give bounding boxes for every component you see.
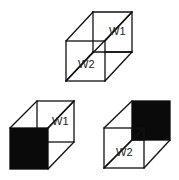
- connector-top-left: [104, 101, 132, 128]
- label-w1: W1: [52, 115, 69, 127]
- diagonal-line: [66, 12, 132, 81]
- connector-bottom-right: [105, 52, 132, 81]
- front-face-filled: [10, 128, 48, 169]
- label-w1: W1: [109, 25, 126, 37]
- connector-top-left: [10, 101, 37, 128]
- connector-bottom-right: [144, 140, 170, 168]
- label-w2: W2: [78, 58, 95, 70]
- label-w2: W2: [116, 146, 133, 158]
- cube-bottom-right: W2: [104, 101, 170, 168]
- cube-bottom-left: W1: [10, 101, 74, 169]
- cube-diagram: W1 W2 W1 W2: [0, 0, 179, 180]
- connector-top-left: [66, 12, 93, 41]
- connector-bottom-right: [48, 142, 74, 169]
- cube-top: W1 W2: [66, 12, 132, 81]
